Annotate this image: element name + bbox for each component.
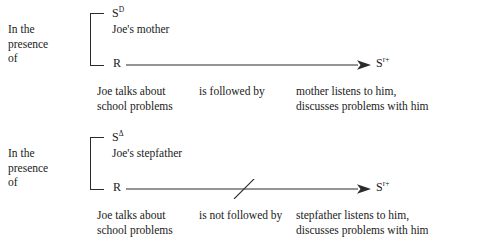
caption-consequent-line-2: discusses problems with him: [296, 223, 429, 238]
caption-relation-text: is not followed by: [199, 208, 282, 223]
presence-line-3: of: [8, 51, 80, 66]
caption-relation-sdelta: is not followed by: [199, 208, 282, 223]
caption-antecedent-sd: Joe talks about school problems: [97, 84, 173, 113]
caption-antecedent-line-1: Joe talks about: [97, 208, 173, 223]
stimulus-description-sd: Joe's mother: [112, 22, 169, 36]
consequence-symbol-superscript: r+: [383, 179, 390, 188]
grouping-bracket-sdelta: [90, 137, 104, 190]
caption-consequent-line-1: mother listens to him,: [296, 84, 429, 99]
diagram-panel-sd: In the presence of SD Joe's mother R Sr+…: [0, 0, 479, 123]
caption-consequent-line-2: discusses problems with him: [296, 99, 429, 114]
consequence-symbol-sdelta: Sr+: [376, 181, 389, 194]
consequence-symbol-base: S: [376, 56, 383, 70]
presence-line-3: of: [8, 175, 80, 190]
presence-line-2: presence: [8, 37, 80, 52]
caption-consequent-sdelta: stepfather listens to him, discusses pro…: [296, 208, 429, 237]
presence-line-1: In the: [8, 146, 80, 161]
caption-consequent-line-1: stepfather listens to him,: [296, 208, 429, 223]
response-symbol-sdelta: R: [113, 181, 121, 194]
caption-antecedent-line-1: Joe talks about: [97, 84, 173, 99]
stimulus-description-sdelta: Joe's stepfather: [112, 146, 182, 160]
grouping-bracket-sd: [90, 13, 104, 66]
stimulus-symbol-base: S: [112, 130, 119, 144]
presence-line-1: In the: [8, 22, 80, 37]
consequence-symbol-superscript: r+: [383, 55, 390, 64]
contingency-arrow-sdelta: [126, 179, 374, 199]
consequence-symbol-base: S: [376, 180, 383, 194]
consequence-symbol-sd: Sr+: [376, 57, 389, 70]
response-symbol-sd: R: [113, 57, 121, 70]
stimulus-symbol-sd: SD: [112, 7, 124, 20]
presence-label-sd: In the presence of: [8, 22, 80, 66]
stimulus-symbol-sdelta: SΔ: [112, 131, 124, 144]
caption-antecedent-line-2: school problems: [97, 223, 173, 238]
contingency-diagram: In the presence of SD Joe's mother R Sr+…: [0, 0, 479, 247]
stimulus-symbol-base: S: [112, 6, 119, 20]
caption-antecedent-line-2: school problems: [97, 99, 173, 114]
contingency-arrow-sd: [126, 55, 374, 75]
diagram-panel-sdelta: In the presence of SΔ Joe's stepfather R…: [0, 124, 479, 247]
stimulus-symbol-superscript: D: [119, 5, 124, 14]
presence-line-2: presence: [8, 161, 80, 176]
caption-consequent-sd: mother listens to him, discusses problem…: [296, 84, 429, 113]
caption-antecedent-sdelta: Joe talks about school problems: [97, 208, 173, 237]
presence-label-sdelta: In the presence of: [8, 146, 80, 190]
caption-relation-text: is followed by: [199, 84, 265, 99]
stimulus-symbol-superscript: Δ: [119, 129, 124, 138]
caption-relation-sd: is followed by: [199, 84, 265, 99]
